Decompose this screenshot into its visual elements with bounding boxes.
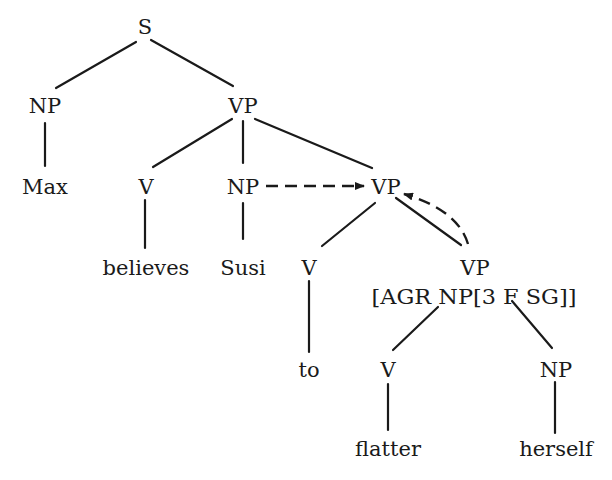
leaf-to: to: [298, 358, 319, 382]
edge-s-vp: [151, 40, 233, 86]
edge-s-np: [56, 42, 136, 88]
edge-vp-v-to: [322, 203, 375, 246]
node-vp-lower: VP: [459, 256, 489, 280]
node-v-to: V: [300, 256, 317, 280]
node-vp-main: VP: [227, 94, 257, 118]
node-v-believes: V: [137, 175, 154, 199]
leaf-susi: Susi: [220, 256, 266, 280]
leaf-flatter: flatter: [355, 437, 422, 461]
leaf-believes: believes: [103, 256, 190, 280]
leaf-herself: herself: [519, 437, 595, 461]
node-np-object: NP: [227, 175, 260, 199]
dashed-arrows: [266, 186, 468, 244]
dashed-arrow-vplower-to-vp: [404, 194, 468, 244]
node-vp-lower-feature: [AGR NP[3 F SG]]: [372, 285, 577, 309]
node-s: S: [138, 15, 152, 39]
syntax-tree-diagram: S NP VP Max V NP VP believes Susi V VP […: [0, 0, 612, 480]
edge-vplower-v: [393, 307, 438, 350]
node-np-reflexive: NP: [540, 358, 573, 382]
node-np-subject: NP: [29, 94, 62, 118]
node-vp-infinitival: VP: [370, 175, 400, 199]
node-v-flatter: V: [379, 358, 396, 382]
leaf-max: Max: [22, 175, 68, 199]
edge-vp-vp: [255, 119, 372, 168]
tree-nodes: S NP VP Max V NP VP believes Susi V VP […: [22, 15, 595, 461]
edge-vp-vp-lower: [396, 198, 461, 245]
edge-vp-v: [153, 119, 232, 167]
